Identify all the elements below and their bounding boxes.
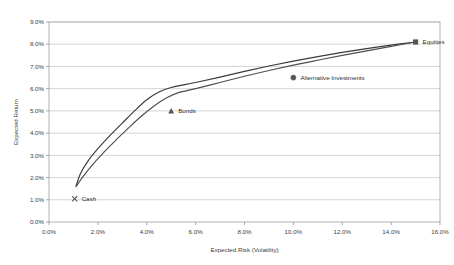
x-tick-label: 16.0%	[431, 228, 449, 235]
x-axis-title: Expected Risk (Volatility)	[210, 246, 278, 253]
circle-marker-icon	[291, 75, 296, 80]
x-tick-label: 4.0%	[140, 228, 155, 235]
x-tick-label: 2.0%	[91, 228, 106, 235]
y-tick-label: 2.0%	[30, 174, 45, 181]
asset-point-label: Bonds	[178, 107, 196, 114]
y-tick-label: 5.0%	[30, 107, 45, 114]
x-tick-label: 10.0%	[285, 228, 303, 235]
y-tick-label: 1.0%	[30, 196, 45, 203]
x-tick-label: 6.0%	[189, 228, 204, 235]
y-tick-label: 0.0%	[30, 218, 45, 225]
x-tick-label: 8.0%	[237, 228, 252, 235]
y-tick-label: 6.0%	[30, 85, 45, 92]
y-tick-label: 7.0%	[30, 63, 45, 70]
square-marker-icon	[413, 39, 418, 44]
x-tick-label: 0.0%	[42, 228, 57, 235]
x-tick-label: 14.0%	[382, 228, 400, 235]
plot-area-frame	[49, 22, 440, 222]
y-axis-title: Expected Return	[12, 98, 19, 145]
chart-canvas: 0.0%2.0%4.0%6.0%8.0%10.0%12.0%14.0%16.0%…	[0, 0, 454, 265]
x-tick-label: 12.0%	[333, 228, 351, 235]
y-tick-label: 3.0%	[30, 152, 45, 159]
asset-point-label: Equities	[423, 38, 445, 45]
asset-point-label: Cash	[82, 195, 97, 202]
asset-point-label: Alternative Investments	[300, 74, 364, 81]
plot-area	[49, 22, 440, 222]
y-tick-label: 9.0%	[30, 18, 45, 25]
efficient-frontier-chart: 0.0%2.0%4.0%6.0%8.0%10.0%12.0%14.0%16.0%…	[0, 0, 454, 265]
y-tick-label: 4.0%	[30, 129, 45, 136]
y-tick-label: 8.0%	[30, 40, 45, 47]
